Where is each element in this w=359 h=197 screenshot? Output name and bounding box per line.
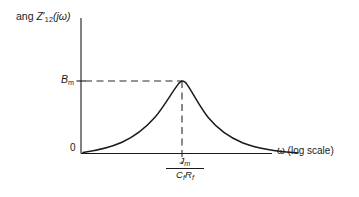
peak-frequency-denominator-r-subscript: f bbox=[192, 173, 194, 182]
response-curve bbox=[83, 81, 298, 153]
y-axis-title-prefix: ang bbox=[16, 10, 34, 22]
y-axis-title-argument: (jω) bbox=[53, 10, 71, 22]
y-tick-label-bm: Bm bbox=[61, 74, 74, 86]
figure-container: angZ′12(jω) Bm 0 ω (log scale) Jm CfRf bbox=[0, 0, 359, 197]
y-tick-label-bm-symbol: B bbox=[61, 73, 68, 85]
peak-frequency-numerator-subscript: m bbox=[184, 159, 190, 168]
origin-label: 0 bbox=[70, 143, 76, 153]
peak-frequency-denominator-r: R bbox=[185, 169, 192, 180]
peak-frequency-denominator-c: C bbox=[176, 169, 183, 180]
y-axis-title-subscript: 12 bbox=[45, 15, 53, 24]
peak-frequency-annotation: Jm CfRf bbox=[147, 156, 223, 181]
peak-frequency-numerator: Jm bbox=[147, 156, 223, 168]
y-tick-label-bm-subscript: m bbox=[68, 78, 74, 87]
x-axis-title: ω (log scale) bbox=[277, 146, 334, 156]
y-axis-title: angZ′12(jω) bbox=[16, 11, 71, 23]
peak-frequency-denominator: CfRf bbox=[147, 169, 223, 181]
